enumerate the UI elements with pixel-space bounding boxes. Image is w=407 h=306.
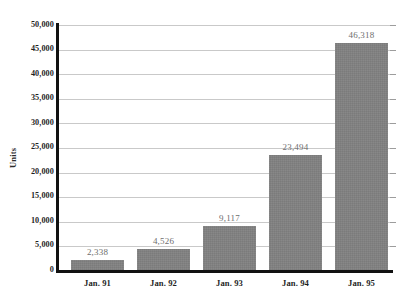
bar-jan-92 [137, 249, 190, 271]
bar-chart: Units 50,000 45,000 40,000 35,000 30,000… [0, 0, 407, 306]
bar-value-jan-94: 23,494 [269, 142, 322, 152]
gridline-50000 [58, 25, 390, 26]
y-tick-label-20000: 20,000 [8, 167, 54, 176]
y-axis-line [56, 23, 59, 273]
x-axis-line [56, 270, 393, 273]
y-tick-label-10000: 10,000 [8, 216, 54, 225]
right-tick-45000 [390, 50, 396, 51]
right-tick-25000 [390, 148, 396, 149]
bar-value-jan-91: 2,338 [71, 247, 124, 257]
right-tick-35000 [390, 99, 396, 100]
y-tick-label-0: 0 [8, 265, 54, 274]
plot-area: 2,338 4,526 9,117 23,494 46,318 [58, 25, 390, 271]
right-tick-30000 [390, 123, 396, 124]
bar-jan-95 [335, 43, 388, 271]
bar-jan-94 [269, 155, 322, 271]
y-tick-label-25000: 25,000 [8, 142, 54, 151]
x-tick-label-jan-93: Jan. 93 [203, 278, 256, 288]
y-tick-label-15000: 15,000 [8, 191, 54, 200]
x-tick-label-jan-91: Jan. 91 [71, 278, 124, 288]
right-tick-40000 [390, 74, 396, 75]
right-tick-10000 [390, 222, 396, 223]
x-tick-label-jan-94: Jan. 94 [269, 278, 322, 288]
right-tick-20000 [390, 173, 396, 174]
x-tick-label-jan-95: Jan. 95 [335, 278, 388, 288]
y-tick-label-45000: 45,000 [8, 44, 54, 53]
right-tick-50000 [390, 25, 396, 26]
bar-value-jan-93: 9,117 [203, 213, 256, 223]
y-tick-label-40000: 40,000 [8, 69, 54, 78]
y-tick-label-30000: 30,000 [8, 118, 54, 127]
y-tick-label-35000: 35,000 [8, 93, 54, 102]
bar-value-jan-95: 46,318 [335, 30, 388, 40]
bar-value-jan-92: 4,526 [137, 236, 190, 246]
x-tick-label-jan-92: Jan. 92 [137, 278, 190, 288]
bar-jan-93 [203, 226, 256, 271]
right-tick-15000 [390, 197, 396, 198]
right-tick-5000 [390, 246, 396, 247]
y-tick-label-50000: 50,000 [8, 20, 54, 29]
y-tick-label-5000: 5,000 [8, 240, 54, 249]
